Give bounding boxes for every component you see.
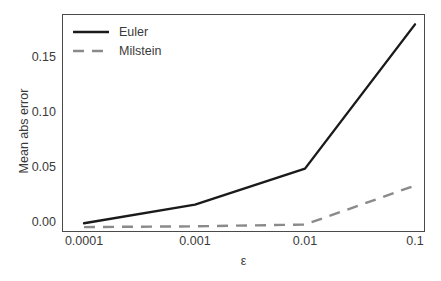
x-tick-label: 0.001 <box>160 234 230 248</box>
chart-legend: Euler Milstein <box>72 22 202 60</box>
series-line-milstein <box>84 186 415 228</box>
x-tick-label: 0.1 <box>380 234 441 248</box>
x-tick-label: 0.0001 <box>49 234 119 248</box>
legend-label-milstein: Milstein <box>119 44 161 58</box>
legend-swatch-dashed-icon <box>72 45 110 57</box>
legend-entry-euler: Euler <box>72 22 202 41</box>
x-axis-label: ε <box>62 254 425 268</box>
y-tick-label: 0.05 <box>12 160 56 174</box>
y-tick-label: 0.10 <box>12 105 56 119</box>
legend-swatch-solid-icon <box>72 26 110 38</box>
legend-label-euler: Euler <box>119 25 148 39</box>
chart-figure: Mean abs error 0.00 0.05 0.10 0.15 Euler <box>0 0 441 281</box>
legend-entry-milstein: Milstein <box>72 41 202 60</box>
x-tick-label: 0.01 <box>270 234 340 248</box>
y-tick-label: 0.00 <box>12 215 56 229</box>
y-tick-label: 0.15 <box>12 50 56 64</box>
